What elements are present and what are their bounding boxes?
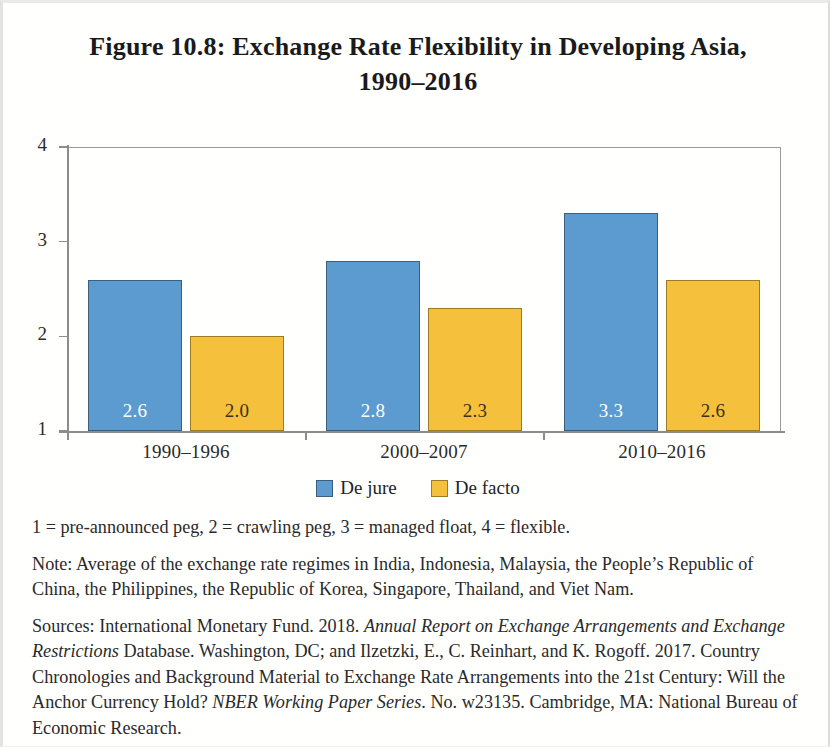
y-axis-tick	[59, 336, 68, 338]
bar-chart: 1234 2.62.02.82.33.32.6 1990–19962000–20…	[3, 3, 830, 463]
bar-value-label: 2.3	[429, 400, 521, 422]
scale-note: 1 = pre-announced peg, 2 = crawling peg,…	[32, 515, 802, 541]
legend-label: De jure	[340, 477, 396, 499]
bar-de-jure-2010–2016: 3.3	[564, 213, 658, 431]
legend-swatch-icon	[431, 480, 448, 497]
y-axis-tick	[59, 241, 68, 243]
x-axis-tick	[67, 431, 69, 440]
bar-de-jure-1990–1996: 2.6	[88, 280, 182, 431]
bar-value-label: 2.8	[327, 400, 419, 422]
legend-item-de-jure: De jure	[316, 477, 396, 499]
bar-value-label: 3.3	[565, 400, 657, 422]
y-axis-label: 3	[17, 229, 47, 251]
x-axis-tick	[305, 431, 307, 440]
bar-de-facto-1990–1996: 2.0	[190, 336, 284, 431]
legend-item-de-facto: De facto	[431, 477, 520, 499]
y-axis-line	[67, 145, 69, 435]
x-axis-category-label: 2010–2016	[543, 441, 781, 463]
bar-de-jure-2000–2007: 2.8	[326, 261, 420, 431]
figure-notes: 1 = pre-announced peg, 2 = crawling peg,…	[32, 515, 802, 741]
figure-page: Figure 10.8: Exchange Rate Flexibility i…	[0, 0, 830, 747]
sources-text-1: Sources: International Monetary Fund. 20…	[32, 616, 364, 636]
general-note: Note: Average of the exchange rate regim…	[32, 552, 802, 603]
legend-label: De facto	[455, 477, 520, 499]
x-axis-category-label: 1990–1996	[67, 441, 305, 463]
x-axis-tick	[543, 431, 545, 440]
y-axis-label: 4	[17, 134, 47, 156]
chart-legend: De jureDe facto	[3, 477, 830, 499]
bar-de-facto-2000–2007: 2.3	[428, 308, 522, 431]
bar-de-facto-2010–2016: 2.6	[666, 280, 760, 431]
y-axis-tick	[59, 146, 68, 148]
x-axis-line	[59, 431, 785, 433]
bar-value-label: 2.6	[89, 400, 181, 422]
y-axis-label: 1	[17, 418, 47, 440]
bar-value-label: 2.6	[667, 400, 759, 422]
bar-value-label: 2.0	[191, 400, 283, 422]
sources-italic-title-2: NBER Working Paper Series	[212, 692, 421, 712]
x-axis-category-label: 2000–2007	[305, 441, 543, 463]
y-axis-label: 2	[17, 323, 47, 345]
sources-note: Sources: International Monetary Fund. 20…	[32, 614, 802, 742]
legend-swatch-icon	[316, 480, 333, 497]
